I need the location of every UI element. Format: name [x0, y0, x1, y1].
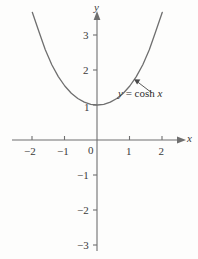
x-axis-label: x	[187, 133, 192, 144]
annotation-function-name: cosh	[135, 87, 155, 99]
y-tick-label--2: −2	[77, 205, 89, 216]
cosh-graph-figure: −2 −1 1 2 0 3 2 1 −1 −2 −3 x y y = cosh …	[0, 0, 198, 259]
y-tick-label--1: −1	[77, 170, 89, 181]
y-tick-label--3: −3	[77, 240, 89, 251]
x-axis	[12, 136, 186, 143]
x-tick-label--1: −1	[57, 146, 69, 157]
y-axis-label: y	[94, 2, 99, 13]
x-tick-label--2: −2	[24, 146, 36, 157]
curve-annotation-label: y = cosh x	[118, 88, 162, 99]
y-axis	[93, 11, 100, 251]
y-tick-label-1: 1	[84, 102, 90, 113]
y-tick-label-3: 3	[83, 30, 89, 41]
y-tick-label-2: 2	[83, 65, 89, 76]
plot-canvas	[0, 0, 198, 259]
origin-label: 0	[88, 145, 94, 156]
x-tick-label-1: 1	[126, 146, 132, 157]
x-tick-label-2: 2	[159, 146, 165, 157]
annotation-argument: x	[158, 87, 163, 99]
